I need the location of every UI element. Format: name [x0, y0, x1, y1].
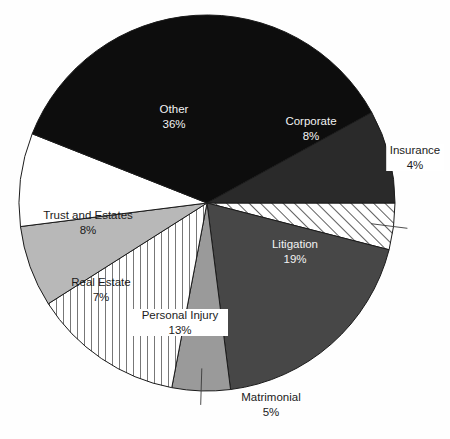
slice-value-personal-injury: 13% — [168, 324, 191, 336]
slice-value-trust-and-estates: 8% — [80, 224, 97, 236]
slice-value-litigation: 19% — [283, 253, 306, 265]
slice-label-real-estate: Real Estate — [71, 276, 130, 288]
slice-label-corporate: Corporate — [285, 115, 336, 127]
slice-value-matrimonial: 5% — [263, 406, 280, 418]
slice-value-insurance: 4% — [407, 159, 424, 171]
slice-label-personal-injury: Personal Injury — [142, 309, 219, 321]
pie-chart-page: Other36%Corporate8%Insurance4%Litigation… — [0, 0, 450, 439]
slice-value-corporate: 8% — [303, 130, 320, 142]
slice-label-other: Other — [160, 103, 189, 115]
slice-label-insurance: Insurance — [390, 144, 441, 156]
slice-label-litigation: Litigation — [272, 238, 318, 250]
pie-chart: Other36%Corporate8%Insurance4%Litigation… — [0, 0, 450, 439]
slice-value-other: 36% — [162, 118, 185, 130]
slice-label-trust-and-estates: Trust and Estates — [43, 209, 133, 221]
slice-value-real-estate: 7% — [93, 291, 110, 303]
slice-label-matrimonial: Matrimonial — [241, 391, 300, 403]
